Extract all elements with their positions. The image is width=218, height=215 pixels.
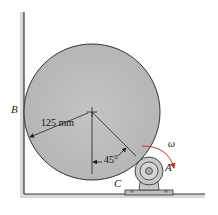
radius-dimension: 125 mm: [41, 117, 74, 128]
label-b: B: [11, 103, 18, 115]
angle-dimension: 45°: [104, 154, 118, 165]
label-omega: ω: [168, 138, 175, 149]
label-a: A: [165, 161, 172, 173]
wall: [20, 12, 24, 195]
diagram-canvas: [0, 0, 218, 215]
floor: [20, 194, 205, 198]
label-c: C: [114, 177, 121, 189]
